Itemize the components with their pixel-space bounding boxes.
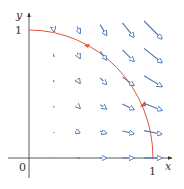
field-vector-arrow [100, 51, 106, 60]
field-vector-arrow [144, 48, 162, 62]
x-tick-label-1: 1 [149, 165, 156, 178]
origin-label: 0 [19, 161, 26, 174]
field-vector-arrow [77, 132, 80, 133]
field-vector-arrow [100, 78, 106, 84]
quarter-circle-curve [29, 30, 153, 158]
field-vector-arrow [53, 132, 54, 133]
field-vector-arrow [53, 28, 54, 32]
vector-field-arrows [53, 21, 162, 158]
field-vector-arrow [77, 26, 80, 33]
field-vector-arrow [53, 80, 54, 82]
field-vector-arrow [53, 106, 54, 107]
y-tick-label-1: 1 [15, 24, 22, 37]
field-vector-arrow [122, 50, 134, 62]
field-vector-arrow [100, 105, 106, 109]
field-vector-arrow [53, 54, 54, 57]
field-vector-arrow [122, 23, 134, 37]
field-vector-arrow [144, 76, 162, 87]
y-axis-label: y [15, 9, 23, 22]
x-axis-label: x [165, 160, 172, 173]
field-vector-arrow [122, 77, 134, 86]
field-vector-arrow [122, 104, 134, 110]
field-vector-arrow [122, 131, 134, 134]
field-vector-arrow [100, 131, 106, 133]
field-vector-arrow [144, 21, 162, 39]
field-vector-arrow [100, 25, 106, 36]
field-vector-arrow [77, 105, 80, 108]
field-vector-arrow [144, 103, 162, 110]
field-vector-arrow [77, 53, 80, 59]
field-vector-arrow [144, 131, 162, 135]
field-vector-arrow [77, 79, 80, 83]
vector-field-diagram: y x 0 1 1 [0, 0, 184, 189]
